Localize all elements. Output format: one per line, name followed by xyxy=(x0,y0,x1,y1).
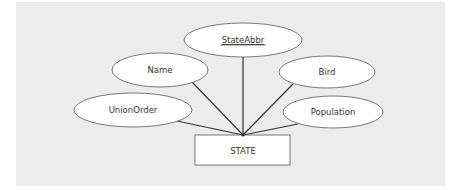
attribute-label: StateAbbr xyxy=(222,35,265,45)
attribute-label: Population xyxy=(311,107,356,117)
entity-state[interactable]: STATE xyxy=(195,135,290,165)
attribute-population[interactable]: Population xyxy=(283,96,383,128)
attribute-label: UnionOrder xyxy=(109,105,158,115)
junction-point xyxy=(242,134,245,137)
attribute-unionorder[interactable]: UnionOrder xyxy=(74,93,192,127)
connector-name xyxy=(192,82,243,135)
attribute-label: Name xyxy=(147,65,172,75)
entity-label: STATE xyxy=(230,146,256,156)
attribute-stateabbr[interactable]: StateAbbr xyxy=(184,23,302,57)
connector-unionorder xyxy=(177,121,243,135)
attribute-bird[interactable]: Bird xyxy=(279,56,375,88)
connector-population xyxy=(243,124,298,135)
er-diagram: StateAbbr Name Bird UnionOrder Populatio… xyxy=(0,0,457,190)
attribute-label: Bird xyxy=(319,67,336,77)
attribute-name[interactable]: Name xyxy=(112,53,208,87)
